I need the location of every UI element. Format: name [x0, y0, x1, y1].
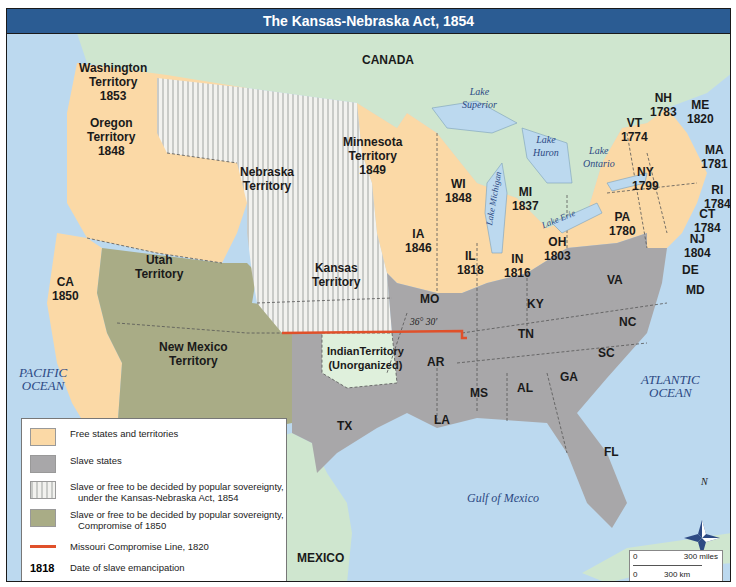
label-in: IN 1816 [504, 252, 531, 280]
label-name: Oregon [87, 116, 135, 130]
label-name: New Mexico [159, 340, 228, 354]
label-ma: MA 1781 [701, 143, 728, 171]
label-year: 1774 [621, 130, 648, 144]
label-ga: GA [560, 370, 578, 384]
label-oregon: Oregon Territory 1848 [87, 116, 135, 158]
legend-line: Missouri Compromise Line, 1820 [70, 541, 209, 552]
label-name: Utah [135, 253, 183, 267]
label-sub: Territory [79, 75, 147, 89]
label-year: 1781 [701, 157, 728, 171]
compass-north-label: N [701, 475, 708, 488]
label-year: 1820 [687, 112, 714, 126]
label-new-mexico: New Mexico Territory [159, 340, 228, 368]
label-name: VT [621, 116, 648, 130]
label-line: OCEAN [641, 386, 700, 399]
legend-line: Slave states [70, 455, 122, 466]
label-ia: IA 1846 [405, 227, 432, 255]
label-year: 1848 [445, 191, 472, 205]
legend-text: Slave states [70, 455, 122, 466]
label-name: CA [52, 275, 79, 289]
label-line: Lake [583, 144, 615, 157]
label-year: 1846 [405, 241, 432, 255]
label-ms: MS [470, 386, 488, 400]
label-indian-territory: IndianTerritory (Unorganized) [327, 344, 404, 372]
label-pacific-ocean: PACIFIC OCEAN [19, 366, 67, 392]
label-name: NJ [684, 232, 711, 246]
label-mo: MO [420, 292, 439, 306]
legend-item-ps-1850: Slave or free to be decided by popular s… [30, 509, 284, 531]
scale-miles: 300 miles [684, 552, 718, 561]
label-name: NY [632, 165, 659, 179]
label-sub: Territory [87, 130, 135, 144]
label-utah: Utah Territory [135, 253, 183, 281]
label-canada: CANADA [362, 53, 414, 67]
scale-zero-miles: 0 [633, 552, 637, 561]
label-mexico: MEXICO [297, 551, 344, 565]
label-name: IndianTerritory [327, 344, 404, 358]
label-line: Ontario [583, 157, 615, 170]
label-year: 1853 [79, 89, 147, 103]
label-minnesota: Minnesota Territory 1849 [343, 135, 402, 177]
label-nebraska: Nebraska Territory [240, 165, 294, 193]
label-pa: PA 1780 [609, 210, 636, 238]
label-year: 1837 [512, 199, 539, 213]
label-ca: CA 1850 [52, 275, 79, 303]
label-sub: Territory [135, 267, 183, 281]
label-va: VA [607, 273, 623, 287]
label-line: Superior [462, 98, 497, 111]
legend-item-ps-1854: Slave or free to be decided by popular s… [30, 481, 284, 503]
label-name: RI [704, 183, 731, 197]
label-line: Lake [533, 133, 559, 146]
legend-swatch-line [30, 545, 56, 548]
legend-line: Slave or free to be decided by popular s… [70, 509, 284, 520]
label-year: 1850 [52, 289, 79, 303]
label-name: ME [687, 98, 714, 112]
label-line: Huron [533, 146, 559, 159]
label-name: Washington [79, 61, 147, 75]
map-title: The Kansas-Nebraska Act, 1854 [7, 9, 730, 34]
scale-zero-km: 0 [633, 570, 637, 579]
legend-line: Slave or free to be decided by popular s… [70, 481, 284, 492]
legend-text: Slave or free to be decided by popular s… [70, 509, 284, 531]
label-oh: OH 1803 [544, 235, 571, 263]
label-name: MA [701, 143, 728, 157]
label-vt: VT 1774 [621, 116, 648, 144]
legend-text: Free states and territories [70, 428, 178, 439]
label-year: 1783 [650, 105, 677, 119]
map-frame: The Kansas-Nebraska Act, 1854 [6, 8, 731, 582]
legend-item-slave: Slave states [30, 455, 122, 473]
label-name: OH [544, 235, 571, 249]
label-name: Nebraska [240, 165, 294, 179]
legend-swatch-free [30, 428, 56, 446]
label-atlantic-ocean: ATLANTIC OCEAN [641, 373, 700, 399]
legend-item-free: Free states and territories [30, 428, 178, 446]
label-washington: Washington Territory 1853 [79, 61, 147, 103]
legend-text: Date of slave emancipation [70, 562, 185, 573]
label-year: 1816 [504, 266, 531, 280]
label-name: IA [405, 227, 432, 241]
label-lake-huron: Lake Huron [533, 133, 559, 159]
scale-line [633, 565, 702, 566]
label-kansas: Kansas Territory [312, 261, 360, 289]
scale-bar: 0 300 miles 0 300 km [629, 550, 723, 582]
legend-swatch-ps-1850 [30, 509, 56, 527]
legend-line: Date of slave emancipation [70, 562, 185, 573]
label-name: PA [609, 210, 636, 224]
legend-swatch-ps-1854 [30, 481, 56, 499]
label-mi: MI 1837 [512, 185, 539, 213]
label-year: 1804 [684, 246, 711, 260]
label-ar: AR [427, 355, 444, 369]
label-sub: Territory [240, 179, 294, 193]
label-year: 1799 [632, 179, 659, 193]
label-name: Kansas [312, 261, 360, 275]
label-md: MD [686, 283, 705, 297]
label-year: 1780 [609, 224, 636, 238]
label-sub: Territory [312, 275, 360, 289]
legend-item-date: 1818 Date of slave emancipation [30, 562, 185, 574]
label-nc: NC [619, 315, 636, 329]
legend-date-sample: 1818 [30, 562, 56, 574]
legend-line: under the Kansas-Nebraska Act, 1854 [70, 492, 284, 503]
label-name: NH [650, 91, 677, 105]
label-name: CT [694, 207, 721, 221]
label-fl: FL [604, 445, 619, 459]
